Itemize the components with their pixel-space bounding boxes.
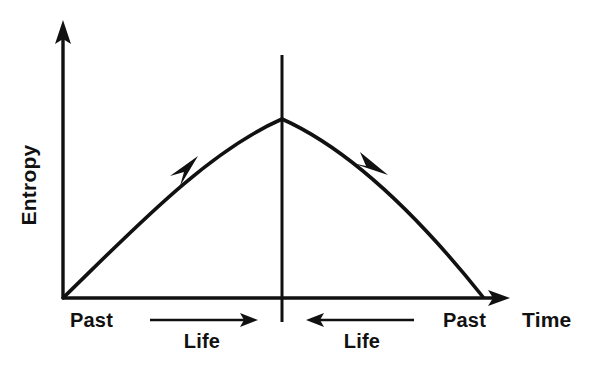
past-right-label: Past — [443, 309, 486, 331]
entropy-time-diagram: Entropy Time Past Past Life Life — [0, 0, 592, 371]
past-left-label: Past — [70, 309, 113, 331]
x-axis-label: Time — [522, 308, 571, 331]
y-axis-label: Entropy — [17, 145, 40, 226]
chart-figure: Entropy Time Past Past Life Life — [0, 0, 592, 371]
life-right-label: Life — [344, 330, 380, 352]
life-left-label: Life — [184, 330, 220, 352]
